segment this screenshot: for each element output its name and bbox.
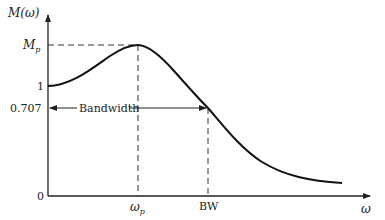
x-axis-label: ω	[361, 202, 371, 216]
one-label: 1	[37, 80, 44, 93]
bandwidth-label: Bandwidth	[79, 102, 139, 115]
zero-label: 0	[37, 190, 44, 203]
y-axis-label: M(ω)	[7, 6, 40, 20]
bw-label: BW	[199, 200, 219, 213]
frequency-response-diagram: M(ω) Mp 1 0.707 0 Bandwidth ωp BW ω	[0, 0, 385, 220]
half-power-label: 0.707	[10, 102, 42, 115]
wp-label: ωp	[130, 200, 145, 216]
mp-label: Mp	[22, 38, 40, 54]
